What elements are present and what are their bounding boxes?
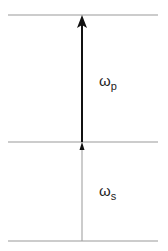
energy-diagram	[0, 0, 168, 251]
pump-subscript: p	[111, 80, 117, 92]
pump-symbol: ω	[99, 72, 111, 89]
signal-subscript: s	[111, 190, 117, 202]
signal-label: ωs	[99, 182, 116, 202]
signal-arrowhead-icon	[80, 142, 85, 150]
pump-label: ωp	[99, 72, 117, 92]
signal-symbol: ω	[99, 182, 111, 199]
